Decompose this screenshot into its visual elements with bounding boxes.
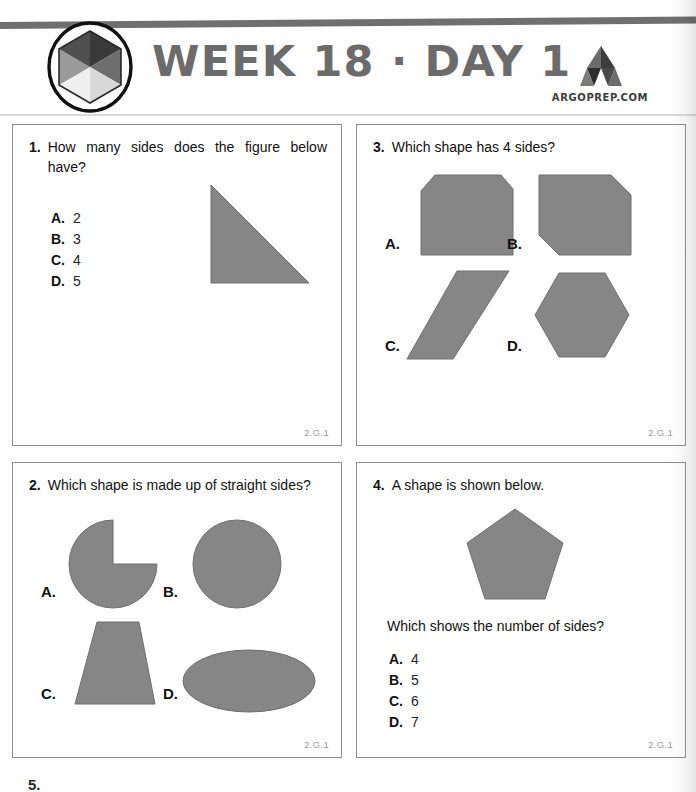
question-1-number: 1. — [29, 137, 41, 157]
question-3-prompt: Which shape has 4 sides? — [392, 137, 555, 157]
question-card-2: 2. Which shape is made up of straight si… — [12, 462, 342, 758]
question-card-3: 3. Which shape has 4 sides? A. B. C. — [356, 124, 686, 446]
choice-row[interactable]: D. 7 — [389, 712, 419, 733]
choice-letter: A. — [389, 649, 411, 670]
option-label-c: C. — [385, 337, 400, 354]
figure-option-b-circle[interactable] — [189, 516, 285, 616]
question-1-choices: A. 2 B. 3 C. 4 D. 5 — [51, 208, 81, 292]
question-2-prompt: Which shape is made up of straight sides… — [48, 475, 327, 495]
choice-value: 3 — [73, 229, 81, 250]
option-label-b: B. — [163, 583, 178, 600]
option-label-a: A. — [41, 583, 56, 600]
choice-value: 4 — [73, 250, 81, 271]
question-3-number: 3. — [373, 137, 385, 157]
choice-value: 6 — [411, 691, 419, 712]
option-label-a: A. — [385, 235, 400, 252]
question-4-prompt: A shape is shown below. — [392, 475, 545, 495]
question-4-choices: A. 4 B. 5 C. 6 D. 7 — [389, 649, 419, 733]
choice-row[interactable]: B. 5 — [389, 670, 419, 691]
choice-letter: A. — [51, 208, 73, 229]
question-4-sub-prompt: Which shows the number of sides? — [387, 616, 604, 636]
page-header: WEEK 18 · DAY 1 ARGOPREP.COM — [0, 0, 696, 120]
figure-option-d-ellipse[interactable] — [179, 646, 319, 720]
figure-option-c-parallelogram[interactable] — [401, 267, 515, 371]
pentagon-figure — [463, 505, 567, 609]
header-divider — [0, 114, 696, 116]
option-label-b: B. — [507, 235, 522, 252]
next-question-number: 5. — [28, 772, 41, 792]
figure-option-a-square-two-top-corners-cut[interactable] — [415, 169, 519, 265]
standard-label: 2.G.1 — [304, 427, 329, 438]
right-triangle-figure — [199, 175, 321, 297]
figure-option-c-trapezoid[interactable] — [69, 618, 165, 714]
choice-value: 4 — [411, 649, 419, 670]
figure-option-b-square-two-opposite-corners-cut[interactable] — [535, 169, 639, 265]
choice-letter: D. — [51, 271, 73, 292]
choice-value: 5 — [411, 670, 419, 691]
choice-row[interactable]: C. 6 — [389, 691, 419, 712]
choice-letter: C. — [51, 250, 73, 271]
question-1-prompt: How many sides does the figure below hav… — [48, 137, 327, 177]
standard-label: 2.G.1 — [648, 427, 673, 438]
question-card-4: 4. A shape is shown below. Which shows t… — [356, 462, 686, 758]
choice-letter: B. — [389, 670, 411, 691]
choice-value: 5 — [73, 271, 81, 292]
hexagon-logo-icon — [47, 21, 133, 113]
choice-value: 7 — [411, 712, 419, 733]
choice-row[interactable]: A. 4 — [389, 649, 419, 670]
question-4-number: 4. — [373, 475, 385, 495]
question-2-number: 2. — [29, 475, 41, 495]
choice-row[interactable]: D. 5 — [51, 271, 81, 292]
choice-letter: D. — [389, 712, 411, 733]
option-label-c: C. — [41, 685, 56, 702]
question-3-header: 3. Which shape has 4 sides? — [373, 137, 671, 157]
choice-letter: C. — [389, 691, 411, 712]
option-label-d: D. — [507, 337, 522, 354]
argoprep-a-mark-icon — [572, 44, 630, 88]
choice-row[interactable]: B. 3 — [51, 229, 81, 250]
figure-option-d-hexagon[interactable] — [529, 269, 635, 365]
brand-logo: ARGOPREP.COM — [546, 44, 654, 112]
standard-label: 2.G.1 — [648, 739, 673, 750]
choice-row[interactable]: C. 4 — [51, 250, 81, 271]
question-2-header: 2. Which shape is made up of straight si… — [29, 475, 327, 495]
option-label-d: D. — [163, 685, 178, 702]
figure-option-a-circle-with-quarter-removed[interactable] — [65, 516, 161, 616]
brand-text: ARGOPREP.COM — [546, 92, 654, 103]
worksheet-page: WEEK 18 · DAY 1 ARGOPREP.COM 1. How many… — [0, 0, 696, 792]
standard-label: 2.G.1 — [304, 739, 329, 750]
question-card-1: 1. How many sides does the figure below … — [12, 124, 342, 446]
choice-letter: B. — [51, 229, 73, 250]
page-title: WEEK 18 · DAY 1 — [152, 36, 571, 86]
question-1-header: 1. How many sides does the figure below … — [29, 137, 327, 177]
choice-value: 2 — [73, 208, 81, 229]
question-4-header: 4. A shape is shown below. — [373, 475, 671, 495]
choice-row[interactable]: A. 2 — [51, 208, 81, 229]
